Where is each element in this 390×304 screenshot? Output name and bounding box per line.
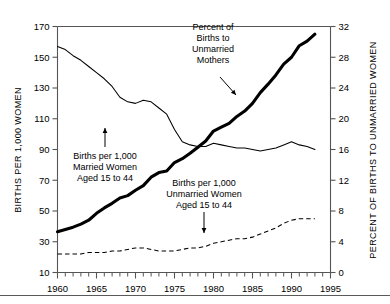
y-axis-right-title: PERCENT OF BIRTHS TO UNMARRIED WOMEN bbox=[368, 41, 378, 258]
y-right-tick-label: 8 bbox=[339, 205, 344, 216]
x-tick-label: 1990 bbox=[281, 283, 302, 294]
footer-divider bbox=[0, 295, 390, 296]
y-left-tick-label: 90 bbox=[39, 144, 50, 155]
figure-container: 19601965197019751980198519901995 1030507… bbox=[0, 0, 390, 304]
series-line-married-births bbox=[58, 46, 315, 151]
x-tick-label: 1985 bbox=[242, 283, 263, 294]
y-axis-left: 1030507090110130150170 bbox=[34, 21, 58, 278]
y-left-tick-label: 10 bbox=[39, 267, 50, 278]
x-tick-label: 1975 bbox=[164, 283, 185, 294]
annotation-text-line: Aged 15 to 44 bbox=[77, 173, 133, 183]
annotations: Births per 1,000Married WomenAged 15 to … bbox=[73, 22, 242, 233]
y-right-tick-label: 32 bbox=[339, 21, 350, 32]
annotation-text-line: Births to bbox=[196, 33, 229, 43]
annotation-text-line: Births per 1,000 bbox=[172, 178, 236, 188]
y-left-tick-label: 170 bbox=[34, 21, 50, 32]
y-left-tick-label: 130 bbox=[34, 82, 50, 93]
y-right-tick-label: 12 bbox=[339, 175, 350, 186]
annotation-arrowhead bbox=[202, 228, 207, 233]
series-line-unmarried-births bbox=[58, 219, 315, 254]
unmarried-annotation: Births per 1,000Unmarried WomenAged 15 t… bbox=[166, 178, 241, 233]
annotation-text-line: Unmarried bbox=[192, 44, 234, 54]
y-left-tick-label: 70 bbox=[39, 175, 50, 186]
annotation-text-line: Unmarried Women bbox=[166, 189, 241, 199]
percent-annotation: Percent ofBirths toUnmarriedMothers bbox=[192, 22, 236, 95]
x-tick-label: 1960 bbox=[47, 283, 68, 294]
y-axis-left-title: BIRTHS PER 1,000 WOMEN bbox=[13, 87, 23, 213]
y-right-tick-label: 24 bbox=[339, 82, 350, 93]
annotation-text-line: Mothers bbox=[197, 55, 230, 65]
x-tick-label: 1980 bbox=[203, 283, 224, 294]
data-series bbox=[58, 34, 315, 254]
annotation-text-line: Births per 1,000 bbox=[73, 151, 137, 161]
y-left-tick-label: 110 bbox=[34, 113, 49, 124]
married-annotation: Births per 1,000Married WomenAged 15 to … bbox=[73, 128, 137, 183]
chart-canvas: 19601965197019751980198519901995 1030507… bbox=[0, 0, 390, 304]
y-right-tick-label: 16 bbox=[339, 144, 350, 155]
annotation-arrowhead bbox=[103, 128, 108, 133]
y-left-tick-label: 50 bbox=[39, 205, 50, 216]
x-axis: 19601965197019751980198519901995 bbox=[47, 273, 341, 294]
y-right-tick-label: 28 bbox=[339, 52, 350, 63]
y-right-tick-label: 4 bbox=[339, 236, 344, 247]
annotation-text-line: Percent of bbox=[192, 22, 234, 32]
y-right-tick-label: 20 bbox=[339, 113, 350, 124]
annotation-text-line: Aged 15 to 44 bbox=[176, 200, 232, 210]
annotation-text-line: Married Women bbox=[73, 162, 137, 172]
y-right-tick-label: 0 bbox=[339, 267, 344, 278]
y-left-tick-label: 30 bbox=[39, 236, 50, 247]
x-tick-label: 1970 bbox=[125, 283, 146, 294]
x-tick-label: 1995 bbox=[320, 283, 341, 294]
y-left-tick-label: 150 bbox=[34, 52, 50, 63]
x-tick-label: 1965 bbox=[86, 283, 107, 294]
y-axis-right: 048121620242832 bbox=[331, 21, 350, 278]
